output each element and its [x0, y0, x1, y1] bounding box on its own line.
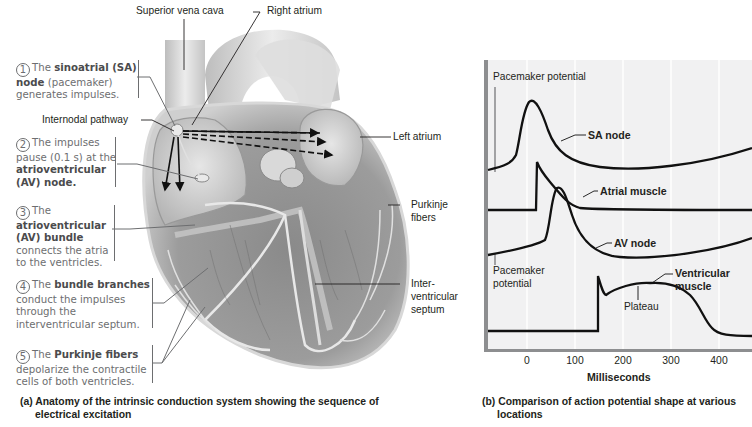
superior-vena-cava-shape [165, 40, 205, 110]
label-sa-node: SA node [588, 129, 631, 141]
label-pacemaker-potential-top: Pacemaker potential [493, 71, 586, 83]
label-atrial-muscle: Atrial muscle [600, 185, 667, 197]
x-axis-label: Milliseconds [587, 371, 651, 383]
step-3-bold: atrioventricular (AV) bundle [16, 220, 106, 243]
caption-b: (b) Comparison of action potential shape… [482, 396, 752, 421]
label-plateau: Plateau [624, 301, 659, 313]
caption-a: (a) Anatomy of the intrinsic conduction … [20, 396, 420, 421]
x-tick-100: 100 [566, 355, 583, 366]
step-number-3-icon: 3 [16, 206, 30, 220]
x-tick-300: 300 [662, 355, 679, 366]
step-1-bracket [138, 60, 139, 98]
x-tick-0: 0 [524, 355, 530, 366]
step-4-bracket [152, 278, 153, 328]
step-number-4-icon: 4 [16, 280, 30, 294]
x-tick-400: 400 [710, 355, 727, 366]
label-left-atrium: Left atrium [393, 131, 441, 143]
label-ventricular-muscle: Ventricular muscle [675, 267, 730, 293]
step-4-text: 4The bundle branches conduct the impulse… [16, 279, 154, 331]
label-purkinje-fibers: Purkinje fibers [411, 198, 448, 224]
av-node-marker [195, 174, 209, 182]
step-number-5-icon: 5 [16, 350, 30, 364]
label-right-atrium: Right atrium [267, 5, 322, 17]
step-5-bold: Purkinje fibers [54, 349, 138, 360]
step-number-1-icon: 1 [16, 63, 30, 77]
label-pacemaker-potential-bottom: Pacemaker potential [493, 264, 545, 290]
step-2-bracket [115, 137, 116, 187]
step-2-bold: atrioventricular (AV) node. [16, 164, 106, 187]
step-5-text: 5The Purkinje fibers depolarize the cont… [16, 349, 156, 389]
action-potential-chart [484, 60, 752, 352]
step-5-bracket [152, 345, 153, 383]
step-3-text: 3The atrioventricular (AV) bundle connec… [16, 205, 114, 270]
label-superior-vena-cava: Superior vena cava [136, 5, 224, 17]
step-4-bold: bundle branches [54, 279, 150, 290]
step-1-text: 1The sinoatrial (SA) node (pacemaker) ge… [16, 62, 141, 102]
step-number-2-icon: 2 [16, 138, 30, 152]
label-av-node: AV node [614, 237, 656, 249]
label-internodal-pathway: Internodal pathway [42, 114, 128, 126]
x-tick-200: 200 [614, 355, 631, 366]
step-3-bracket [114, 205, 115, 261]
label-interventricular-septum: Inter- ventricular septum [411, 277, 458, 316]
